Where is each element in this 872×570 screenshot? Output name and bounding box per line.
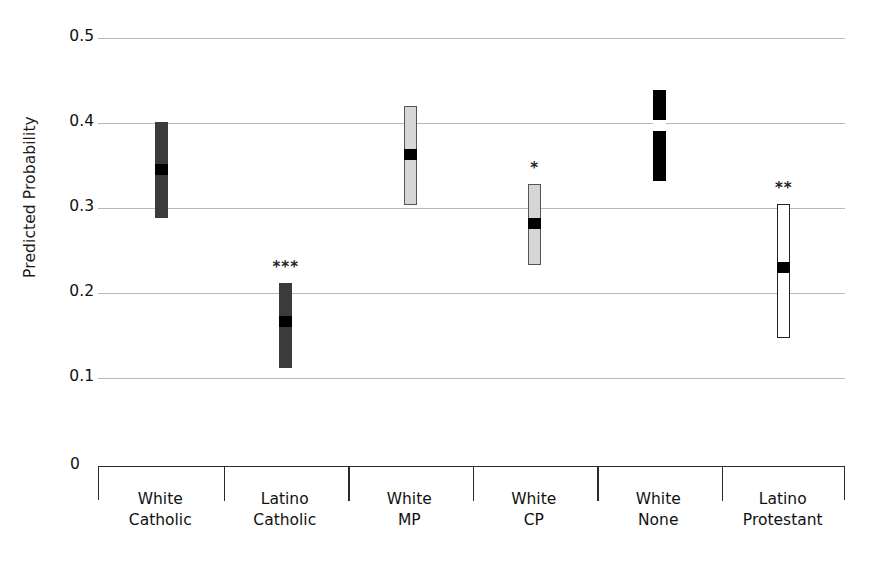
category-label-line: Latino (713, 489, 853, 510)
significance-marker: *** (246, 258, 326, 276)
point-estimate-marker (404, 149, 417, 160)
y-axis-title: Predicted Probability (21, 97, 39, 297)
y-axis-tick-label: 0.2 (50, 282, 94, 300)
gridline (98, 38, 845, 39)
category-label-line: CP (464, 510, 604, 531)
predicted-probability-chart: Predicted Probability 0.50.40.30.20.1 **… (0, 0, 872, 570)
confidence-interval-bar (653, 90, 666, 181)
y-axis-tick-label: 0.1 (50, 367, 94, 385)
point-estimate-marker (653, 120, 666, 131)
y-axis-tick-label: 0.4 (50, 112, 94, 130)
plot-area: ****** (98, 0, 845, 420)
confidence-interval-bar (279, 283, 292, 368)
point-estimate-marker (279, 316, 292, 327)
x-axis-category-label: WhiteCP (464, 489, 604, 531)
x-axis-category-label: WhiteMP (339, 489, 479, 531)
category-label-line: Catholic (215, 510, 355, 531)
significance-marker: * (495, 159, 575, 177)
x-axis-category-label: WhiteNone (588, 489, 728, 531)
category-label-line: White (464, 489, 604, 510)
x-axis-category-label: LatinoCatholic (215, 489, 355, 531)
gridline (98, 123, 845, 124)
y-axis-tick-label: 0.5 (50, 27, 94, 45)
category-label-line: MP (339, 510, 479, 531)
confidence-interval-bar (155, 122, 168, 218)
category-label-line: Protestant (713, 510, 853, 531)
category-label-line: Latino (215, 489, 355, 510)
category-label-line: White (339, 489, 479, 510)
confidence-interval-bar (528, 184, 541, 265)
x-axis-category-label: LatinoProtestant (713, 489, 853, 531)
category-label-line: Catholic (90, 510, 230, 531)
gridline (98, 378, 845, 379)
category-label-line: White (588, 489, 728, 510)
category-label-line: None (588, 510, 728, 531)
point-estimate-marker (155, 164, 168, 175)
gridline (98, 293, 845, 294)
gridline (98, 208, 845, 209)
point-estimate-marker (777, 262, 790, 273)
significance-marker: ** (744, 179, 824, 197)
confidence-interval-bar (777, 204, 790, 338)
confidence-interval-bar (404, 106, 417, 205)
x-axis-category-label: WhiteCatholic (90, 489, 230, 531)
y-axis-tick-label: 0.3 (50, 197, 94, 215)
y-axis-zero-label: 0 (70, 455, 80, 473)
point-estimate-marker (528, 218, 541, 229)
interval-band (653, 90, 666, 181)
category-label-line: White (90, 489, 230, 510)
